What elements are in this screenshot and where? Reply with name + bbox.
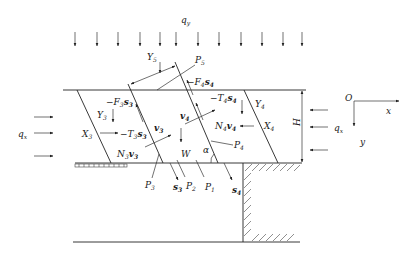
s3-label: s3 <box>173 182 182 193</box>
retaining-wall <box>243 163 300 242</box>
n3v3-label: N3v3 <box>116 149 138 160</box>
p2-label: P2 <box>185 181 196 192</box>
f3s3-label: −F3s3 <box>106 97 133 108</box>
s4-label: s4 <box>232 185 241 196</box>
p4-leader-line <box>211 141 233 145</box>
vertical-load-arrows <box>75 32 302 46</box>
p3-label: P3 <box>144 180 155 191</box>
x3-label: X3 <box>81 129 92 140</box>
x4-label: X4 <box>263 121 274 132</box>
top-block-dimension-arrow <box>131 66 175 84</box>
alpha-arc <box>211 154 214 163</box>
f4s4-label: −F4s4 <box>187 77 214 88</box>
f3-arrow <box>136 104 143 122</box>
p5-label: P5 <box>194 55 205 66</box>
left-support-hatch <box>75 164 127 167</box>
y3-label: Y3 <box>97 110 107 121</box>
s3-arrow <box>170 163 178 180</box>
weight-label: W <box>181 149 191 159</box>
coordinate-axes <box>354 101 399 126</box>
v4-label: v4 <box>180 111 189 122</box>
p3-leader-line <box>152 154 159 178</box>
y4-label: Y4 <box>255 99 265 110</box>
y-axis-label: y <box>359 137 366 147</box>
slope-diagram: qy <box>0 0 417 260</box>
y5-label: Y5 <box>147 52 157 63</box>
p4-label: P4 <box>233 140 244 151</box>
t3s3-label: −T3s3 <box>120 129 147 140</box>
qx-right-label: qx <box>334 123 344 134</box>
n4v4-label: N4v4 <box>214 121 236 132</box>
p1-label: P1 <box>204 182 215 193</box>
height-label: H <box>292 118 302 127</box>
x-axis-label: x <box>386 106 391 116</box>
s4-arrow <box>224 163 232 180</box>
v3-label: v3 <box>154 123 163 134</box>
qx-left-label: qx <box>18 129 28 140</box>
origin-label: O <box>345 93 353 103</box>
t4s4-label: −T4s4 <box>210 93 237 104</box>
alpha-label: α <box>203 145 209 155</box>
qy-label: qy <box>181 15 191 27</box>
v3-arrow <box>145 135 171 147</box>
